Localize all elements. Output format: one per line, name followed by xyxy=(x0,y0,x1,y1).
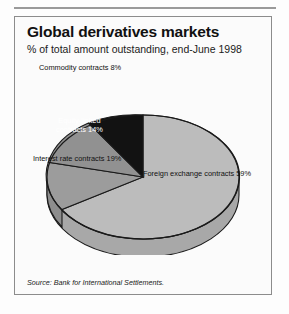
figure-page: Global derivatives markets % of total am… xyxy=(0,0,289,314)
pie-label-equity-linked-line2: contracts 14% xyxy=(56,125,103,134)
figure-subtitle: % of total amount outstanding, end-June … xyxy=(27,43,242,55)
pie-label-commodity: Commodity contracts 8% xyxy=(39,63,121,72)
top-divider xyxy=(14,7,276,9)
pie-label-equity-linked-line1: Equity-linked xyxy=(56,116,103,125)
pie-label-foreign-exchange: Foreign exchange contracts 59% xyxy=(143,169,251,178)
pie-label-equity-linked: Equity-linked contracts 14% xyxy=(56,116,103,135)
figure-source: Source: Bank for International Settlemen… xyxy=(27,278,164,287)
page-title: Global derivatives markets xyxy=(27,23,219,41)
pie-label-interest-rate: Interest rate contracts 19% xyxy=(33,154,121,163)
figure-box: Global derivatives markets % of total am… xyxy=(14,16,272,295)
